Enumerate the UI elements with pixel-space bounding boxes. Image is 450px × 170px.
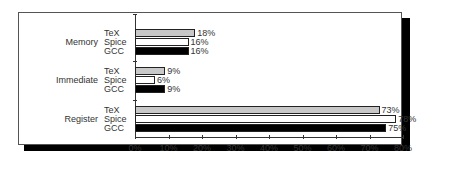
series-label: GCC: [104, 123, 124, 133]
y-axis-tick: [133, 14, 137, 15]
y-axis-tick: [133, 61, 137, 62]
bar-tex-immediate: [135, 67, 165, 75]
bar-tex-register: [135, 106, 380, 114]
x-axis-tick: [169, 135, 170, 139]
x-tick-label: 50%: [293, 143, 311, 153]
x-tick-label: 40%: [260, 143, 278, 153]
x-tick-label: 70%: [360, 143, 378, 153]
x-axis-tick: [269, 135, 270, 139]
bar-gcc-immediate: [135, 85, 165, 93]
x-axis-tick: [403, 135, 404, 139]
value-label: 9%: [167, 84, 180, 94]
value-label: 16%: [191, 46, 209, 56]
bar-spice-immediate: [135, 76, 155, 84]
bar-spice-memory: [135, 38, 189, 46]
series-label: GCC: [104, 84, 124, 94]
category-label: Register: [38, 114, 98, 124]
bar-spice-register: [135, 115, 396, 123]
value-label: 75%: [388, 123, 406, 133]
bar-gcc-memory: [135, 47, 189, 55]
bar-gcc-register: [135, 124, 386, 132]
x-axis-tick: [236, 135, 237, 139]
x-axis-tick: [336, 135, 337, 139]
category-label: Immediate: [38, 75, 98, 85]
x-axis-tick: [370, 135, 371, 139]
x-axis-tick: [135, 135, 136, 139]
series-label: GCC: [104, 46, 124, 56]
x-tick-label: 10%: [159, 143, 177, 153]
category-label: Memory: [38, 37, 98, 47]
x-tick-label: 80%: [394, 143, 412, 153]
y-axis-tick: [133, 100, 137, 101]
bar-tex-memory: [135, 29, 195, 37]
x-tick-label: 30%: [226, 143, 244, 153]
x-axis-tick: [303, 135, 304, 139]
x-tick-label: 20%: [193, 143, 211, 153]
x-axis-tick: [202, 135, 203, 139]
x-tick-label: 0%: [128, 143, 141, 153]
value-label: 73%: [382, 105, 400, 115]
x-tick-label: 60%: [327, 143, 345, 153]
